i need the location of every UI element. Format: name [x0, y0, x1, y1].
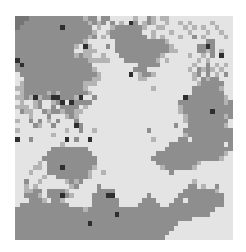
grid-cell [228, 235, 233, 240]
pixel-grid [15, 16, 233, 240]
